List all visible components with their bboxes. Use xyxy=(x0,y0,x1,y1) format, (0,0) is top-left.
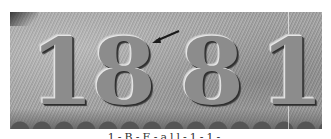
date-digit-1-last: 1 xyxy=(260,26,322,118)
date-digit-1: 1 xyxy=(30,26,94,118)
arrow-icon xyxy=(150,29,180,45)
caption: 1-B-E-all-1-1- xyxy=(0,131,331,139)
coin-photo: 1 8 8 1 xyxy=(10,12,322,129)
date-digit-8-second: 8 xyxy=(180,26,244,118)
date-digit-8-first: 8 xyxy=(92,26,156,118)
